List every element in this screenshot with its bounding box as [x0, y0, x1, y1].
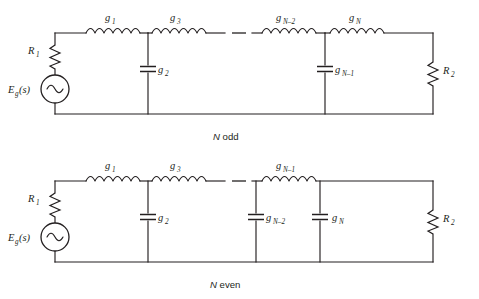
resistor-r1-n-odd: [50, 45, 60, 69]
g1-label-letter: g: [105, 160, 110, 171]
capacitor-gn2-branch-n-even: [248, 181, 264, 262]
gn-label-sub: N: [338, 218, 345, 226]
gn2-label-sub: N–2: [272, 218, 285, 226]
r1-label-sub: 1: [36, 199, 40, 207]
r1-label-letter: R: [27, 45, 35, 56]
gn1-label-letter: g: [335, 64, 340, 75]
inductor-gn1-n-even: [262, 177, 316, 182]
gn1-label-sub: N–1: [341, 70, 354, 78]
capacitor-g2-branch-n-even: [140, 181, 156, 262]
g3-label-sub: 3: [176, 166, 181, 174]
g2-label-letter: g: [158, 64, 163, 75]
gn-label-letter: g: [332, 212, 337, 223]
resistor-r2-n-odd: [428, 33, 438, 114]
g3-label-letter: g: [170, 12, 175, 23]
capacitor-gn-branch-n-even: [312, 181, 328, 262]
capacitor-gn-label-n-even: g N: [332, 212, 345, 226]
resistor-r2-n-even: [428, 181, 438, 262]
inductor-g1-label-n-odd: g 1: [105, 12, 116, 26]
inductor-g3-label-n-odd: g 3: [170, 12, 181, 26]
ac-source-n-even: [41, 223, 69, 251]
eg-label-suffix: (s): [19, 84, 31, 96]
capacitor-gn1-branch-n-odd: [317, 33, 333, 114]
g3-label-sub: 3: [176, 18, 181, 26]
g2-label-sub: 2: [165, 70, 169, 78]
inductor-g3-n-even: [152, 177, 206, 182]
capacitor-g2-branch-n-odd: [140, 33, 156, 114]
caption-n-odd-word: odd: [223, 131, 239, 142]
inductor-gn-n-odd: [330, 29, 384, 34]
resistor-r2-label-n-even: R 2: [442, 213, 455, 227]
r2-label-letter: R: [442, 213, 450, 224]
caption-n-odd-variable: N: [213, 131, 220, 142]
circuit-n-even: R 1 E g (s) g 1 g 3: [7, 160, 455, 290]
gn2-label-sub: N–2: [282, 18, 295, 26]
ac-source-label-n-even: E g (s): [7, 232, 31, 246]
g1-label-sub: 1: [112, 166, 116, 174]
eg-label-letter: E: [7, 232, 15, 243]
capacitor-gn2-label-n-even: g N–2: [266, 212, 285, 226]
capacitor-g2-label-n-odd: g 2: [158, 64, 169, 78]
gn-label-letter: g: [349, 12, 354, 23]
caption-n-even-word: even: [220, 279, 241, 290]
resistor-r1-label-n-even: R 1: [27, 193, 40, 207]
circuit-figure: R 1 E g (s) g 1 g 3: [0, 0, 479, 299]
caption-n-even: N even: [210, 279, 240, 290]
circuit-n-odd: R 1 E g (s) g 1 g 3: [7, 12, 455, 142]
resistor-r1-label-n-odd: R 1: [27, 45, 40, 59]
capacitor-g2-label-n-even: g 2: [158, 212, 169, 226]
r1-label-letter: R: [27, 193, 35, 204]
inductor-gn2-label-n-odd: g N–2: [276, 12, 295, 26]
ac-source-label-n-odd: E g (s): [7, 84, 31, 98]
r2-label-sub: 2: [451, 219, 455, 227]
gn2-label-letter: g: [276, 12, 281, 23]
r1-label-sub: 1: [36, 51, 40, 59]
inductor-g3-label-n-even: g 3: [170, 160, 181, 174]
capacitor-gn1-label-n-odd: g N–1: [335, 64, 354, 78]
ac-source-n-odd: [41, 75, 69, 103]
g3-label-letter: g: [170, 160, 175, 171]
r2-label-letter: R: [442, 65, 450, 76]
svg-text:N odd: N odd: [213, 131, 239, 142]
g2-label-letter: g: [158, 212, 163, 223]
inductor-gn2-n-odd: [262, 29, 316, 34]
inductor-g1-n-even: [86, 177, 140, 182]
caption-n-even-variable: N: [210, 279, 217, 290]
gn1-label-sub: N–1: [282, 166, 295, 174]
gn-label-sub: N: [355, 18, 362, 26]
g1-label-letter: g: [105, 12, 110, 23]
gn1-label-letter: g: [276, 160, 281, 171]
caption-n-odd: N odd: [213, 131, 239, 142]
inductor-g1-n-odd: [86, 29, 140, 34]
inductor-g3-n-odd: [152, 29, 206, 34]
eg-label-letter: E: [7, 84, 15, 95]
gn2-label-letter: g: [266, 212, 271, 223]
inductor-g1-label-n-even: g 1: [105, 160, 116, 174]
svg-text:N even: N even: [210, 279, 240, 290]
resistor-r1-n-even: [50, 193, 60, 217]
inductor-gn1-label-n-even: g N–1: [276, 160, 295, 174]
resistor-r2-label-n-odd: R 2: [442, 65, 455, 79]
g1-label-sub: 1: [112, 18, 116, 26]
g2-label-sub: 2: [165, 218, 169, 226]
inductor-gn-label-n-odd: g N: [349, 12, 362, 26]
eg-label-suffix: (s): [19, 232, 31, 244]
r2-label-sub: 2: [451, 71, 455, 79]
